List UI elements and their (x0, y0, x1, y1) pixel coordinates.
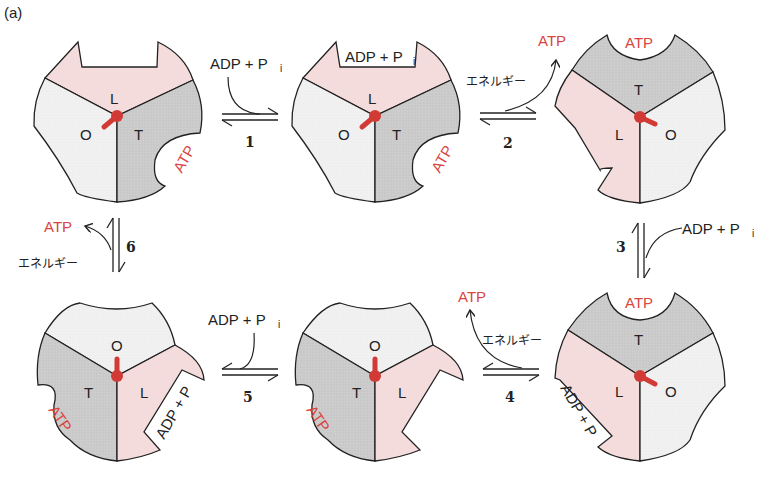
label-O: O (80, 126, 92, 143)
svg-text:O: O (369, 337, 381, 354)
svg-text:T: T (634, 331, 643, 348)
step-6: ATP エネルギー 6 (18, 218, 136, 272)
svg-text:i: i (280, 63, 282, 74)
svg-text:T: T (634, 81, 643, 98)
svg-text:2: 2 (503, 135, 513, 151)
svg-text:i: i (752, 228, 754, 239)
step-1: ADP + P i 1 (210, 55, 282, 150)
svg-text:1: 1 (245, 134, 255, 150)
state-2: ADP + P i L O T ATP (292, 42, 460, 202)
state-6: O T L ATP ADP + P (37, 303, 204, 461)
svg-text:ATP: ATP (538, 32, 566, 49)
svg-text:T: T (352, 384, 361, 401)
svg-text:ATP: ATP (625, 34, 653, 51)
svg-text:ADP + P: ADP + P (208, 311, 266, 328)
svg-text:ADP + P: ADP + P (345, 48, 403, 65)
svg-text:i: i (413, 56, 415, 67)
svg-text:L: L (615, 126, 623, 143)
svg-text:L: L (615, 383, 623, 400)
svg-text:エネルギー: エネルギー (482, 334, 542, 348)
svg-text:L: L (368, 90, 376, 107)
step-4: ATP エネルギー 4 (458, 288, 542, 405)
svg-text:L: L (398, 384, 406, 401)
label-T: T (134, 126, 143, 143)
svg-text:T: T (392, 126, 401, 143)
svg-text:O: O (338, 126, 350, 143)
svg-text:T: T (84, 384, 93, 401)
svg-text:エネルギー: エネルギー (466, 75, 526, 89)
svg-text:ATP: ATP (625, 294, 653, 311)
svg-text:ATP: ATP (44, 218, 72, 235)
state-3: ATP T L O (555, 34, 725, 203)
svg-text:ATP: ATP (458, 288, 486, 305)
atp-synthase-binding-change-diagram: (a) L O T ATP ADP + P i 1 ADP + P i L O (0, 0, 761, 477)
atp-bound: ATP (170, 142, 199, 175)
svg-text:O: O (665, 126, 677, 143)
svg-text:ATP: ATP (428, 142, 457, 175)
svg-text:O: O (665, 383, 677, 400)
svg-text:i: i (278, 319, 280, 330)
state-1: L O T ATP (34, 42, 202, 202)
figure-label: (a) (4, 4, 22, 21)
svg-text:L: L (140, 384, 148, 401)
svg-text:ADP + P: ADP + P (210, 55, 268, 72)
svg-text:5: 5 (243, 389, 253, 405)
svg-text:ADP + P: ADP + P (682, 220, 740, 237)
svg-text:O: O (111, 337, 123, 354)
step-2: エネルギー ATP 2 (466, 32, 566, 151)
svg-text:3: 3 (616, 239, 626, 255)
svg-text:エネルギー: エネルギー (18, 257, 78, 271)
label-L: L (110, 90, 118, 107)
step-5: ADP + P i 5 (208, 311, 280, 405)
state-5: O T L ATP (295, 303, 463, 461)
step-3: ADP + P i 3 (616, 220, 754, 278)
svg-text:6: 6 (126, 239, 136, 255)
svg-text:4: 4 (505, 389, 515, 405)
state-4: ATP T L O ADP + P (555, 293, 725, 461)
